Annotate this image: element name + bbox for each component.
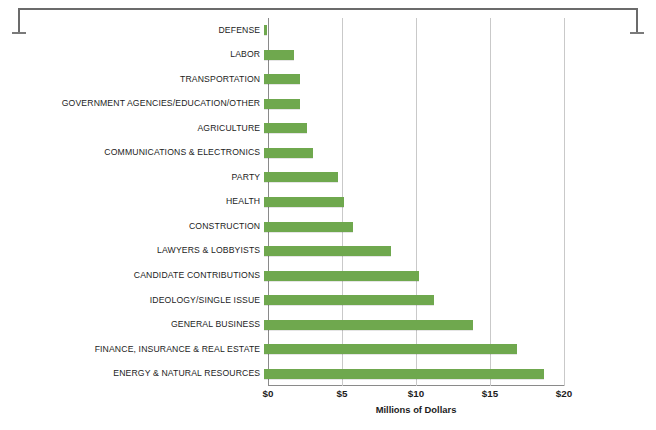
- category-label: ENERGY & NATURAL RESOURCES: [16, 369, 264, 378]
- bar-track: [264, 214, 656, 239]
- bar-rows: DEFENSELABORTRANSPORTATIONGOVERNMENT AGE…: [0, 18, 656, 386]
- category-label: FINANCE, INSURANCE & REAL ESTATE: [16, 345, 264, 354]
- bar-row: LAWYERS & LOBBYISTS: [0, 239, 656, 264]
- bar-row: AGRICULTURE: [0, 116, 656, 141]
- bar-row: GENERAL BUSINESS: [0, 312, 656, 337]
- category-label: LABOR: [16, 50, 264, 59]
- bar-track: [264, 116, 656, 141]
- bar-row: GOVERNMENT AGENCIES/EDUCATION/OTHER: [0, 92, 656, 117]
- bar: [264, 123, 307, 133]
- bar-row: LABOR: [0, 43, 656, 68]
- category-label: TRANSPORTATION: [16, 75, 264, 84]
- bar-track: [264, 288, 656, 313]
- bar-row: TRANSPORTATION: [0, 67, 656, 92]
- bar: [264, 25, 267, 35]
- bar: [264, 320, 473, 330]
- bar-row: DEFENSE: [0, 18, 656, 43]
- bar: [264, 172, 338, 182]
- category-label: LAWYERS & LOBBYISTS: [16, 246, 264, 255]
- bar-chart: DEFENSELABORTRANSPORTATIONGOVERNMENT AGE…: [0, 0, 656, 430]
- x-tick-label: $15: [482, 388, 498, 399]
- bar-row: CONSTRUCTION: [0, 214, 656, 239]
- category-label: IDEOLOGY/SINGLE ISSUE: [16, 296, 264, 305]
- category-label: AGRICULTURE: [16, 124, 264, 133]
- category-label: CANDIDATE CONTRIBUTIONS: [16, 271, 264, 280]
- bar-row: PARTY: [0, 165, 656, 190]
- category-label: CONSTRUCTION: [16, 222, 264, 231]
- x-tick-label: $0: [263, 388, 274, 399]
- bar-track: [264, 165, 656, 190]
- category-label: PARTY: [16, 173, 264, 182]
- x-tick-label: $10: [408, 388, 424, 399]
- bar-track: [264, 239, 656, 264]
- bar-row: IDEOLOGY/SINGLE ISSUE: [0, 288, 656, 313]
- bar-track: [264, 141, 656, 166]
- bar-row: ENERGY & NATURAL RESOURCES: [0, 361, 656, 386]
- x-tick-label: $5: [337, 388, 348, 399]
- bar-track: [264, 263, 656, 288]
- bar-track: [264, 312, 656, 337]
- bar-track: [264, 190, 656, 215]
- bar: [264, 344, 517, 354]
- x-tick-label: $20: [556, 388, 572, 399]
- bar-row: FINANCE, INSURANCE & REAL ESTATE: [0, 337, 656, 362]
- category-label: HEALTH: [16, 197, 264, 206]
- category-label: COMMUNICATIONS & ELECTRONICS: [16, 148, 264, 157]
- bar: [264, 197, 344, 207]
- x-axis-title: Millions of Dollars: [268, 404, 564, 415]
- bar: [264, 148, 313, 158]
- bar: [264, 99, 300, 109]
- bar-track: [264, 361, 656, 386]
- bar-row: COMMUNICATIONS & ELECTRONICS: [0, 141, 656, 166]
- bar: [264, 271, 419, 281]
- bar: [264, 222, 353, 232]
- bar: [264, 74, 300, 84]
- bar: [264, 369, 544, 379]
- category-label: DEFENSE: [16, 26, 264, 35]
- bar: [264, 295, 434, 305]
- bar-row: CANDIDATE CONTRIBUTIONS: [0, 263, 656, 288]
- bar-track: [264, 67, 656, 92]
- bracket-rail: [18, 8, 638, 10]
- bar-track: [264, 18, 656, 43]
- bar-track: [264, 337, 656, 362]
- category-label: GENERAL BUSINESS: [16, 320, 264, 329]
- bar-track: [264, 92, 656, 117]
- bar: [264, 50, 294, 60]
- bar-row: HEALTH: [0, 190, 656, 215]
- category-label: GOVERNMENT AGENCIES/EDUCATION/OTHER: [16, 99, 264, 108]
- x-axis-tick-labels: $0$5$10$15$20: [0, 388, 656, 404]
- bar: [264, 246, 391, 256]
- bar-track: [264, 43, 656, 68]
